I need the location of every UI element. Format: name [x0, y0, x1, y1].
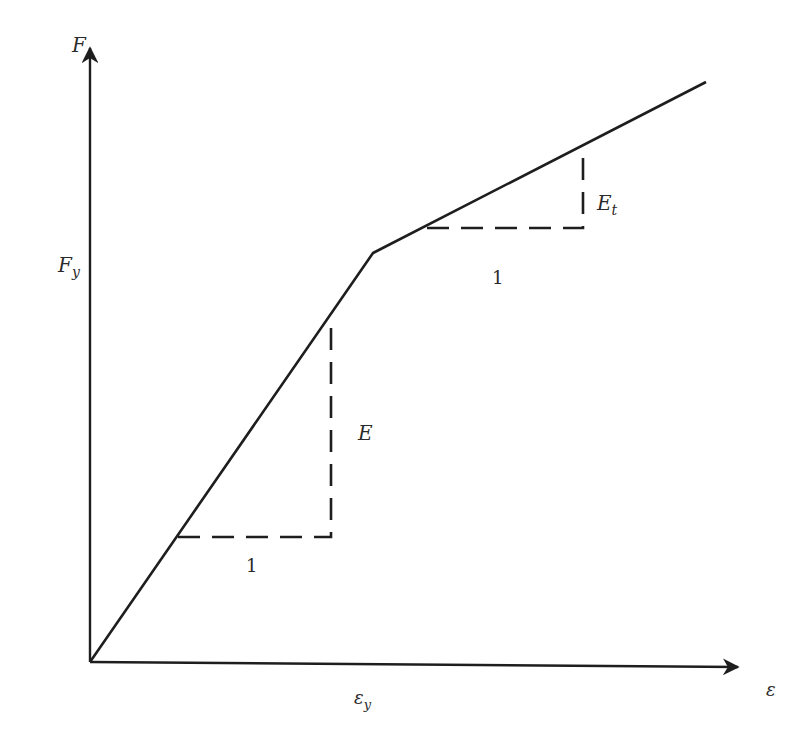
- elastic-run-label: 1: [246, 555, 257, 576]
- tangent-modulus-label: Et: [596, 191, 618, 218]
- force-strain-diagram: F ε Fy εy E 1 Et 1: [0, 0, 809, 738]
- x-axis-label: ε: [766, 679, 776, 700]
- yield-force-main: F: [57, 253, 73, 277]
- tangent-run-label: 1: [492, 267, 503, 288]
- yield-strain-label: εy: [354, 687, 372, 712]
- elastic-modulus-label: E: [357, 421, 373, 445]
- bilinear-curve: [90, 82, 706, 662]
- x-axis-arrow: [90, 662, 738, 667]
- yield-strain-sub: y: [363, 697, 372, 712]
- yield-strain-main: ε: [354, 687, 364, 708]
- yield-force-sub: y: [71, 264, 81, 280]
- y-axis-label: F: [71, 33, 87, 57]
- tangent-modulus-main: E: [596, 191, 612, 215]
- tangent-modulus-sub: t: [612, 202, 618, 218]
- yield-force-label: Fy: [57, 253, 81, 280]
